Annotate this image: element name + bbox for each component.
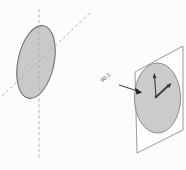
clock-face: [135, 63, 181, 133]
annotation-arrow-line: [119, 85, 136, 91]
precession-and-clock-figure: [0, 0, 186, 170]
diagram-canvas: 90.5: [0, 0, 186, 170]
clock-center-dot: [155, 96, 158, 99]
tilted-disk-ellipse: [11, 22, 62, 102]
